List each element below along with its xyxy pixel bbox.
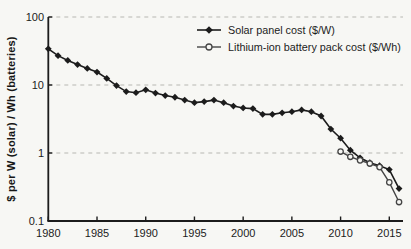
solar-series-point [191,99,198,106]
x-tick-label: 1990 [133,227,157,239]
solar-series-point [279,109,286,116]
solar-series-point [230,103,237,110]
battery-series-point [377,164,382,169]
solar-series-point [211,97,218,104]
solar-series-point [220,99,227,106]
solar-series-marker-icon [196,24,222,36]
solar-series-point [288,108,295,115]
solar-series-point [308,108,315,115]
battery-series-point [387,180,392,185]
legend-item-battery: Lithium-ion battery pack cost ($/Wh) [196,39,401,55]
battery-series-point [348,154,353,159]
battery-series-point [396,199,401,204]
x-tick-label: 2005 [280,227,304,239]
battery-series-marker-icon [196,41,222,53]
x-tick-label: 1980 [36,227,60,239]
solar-series-point [74,61,81,68]
solar-series-point [152,90,159,97]
solar-series-point [298,107,305,114]
solar-series-point [142,86,149,93]
battery-series-point [367,161,372,166]
solar-series-point [259,111,266,118]
x-tick-label: 2000 [231,227,255,239]
x-tick-label: 1985 [85,227,109,239]
solar-series-point [162,92,169,99]
x-tick-label: 1995 [182,227,206,239]
x-tick-label: 2015 [377,227,401,239]
y-axis-title: $ per W (solar) / Wh (batteries) [5,36,17,201]
y-tick-label: 0.1 [29,215,44,227]
solar-series-point [396,185,403,192]
solar-series-point [84,65,91,72]
solar-series-point [269,111,276,118]
battery-series-point [338,149,343,154]
solar-series-point [172,94,179,101]
figure: 1001010.11980198519901995200020052010201… [0,0,411,249]
legend-label: Lithium-ion battery pack cost ($/Wh) [228,41,401,53]
legend: Solar panel cost ($/W) Lithium-ion batte… [196,22,401,55]
battery-series-point [357,158,362,163]
solar-series-line [48,49,399,189]
solar-series-point [133,89,140,96]
solar-series-point [386,166,393,173]
solar-series-point [201,98,208,105]
y-tick-label: 10 [32,79,44,91]
legend-item-solar: Solar panel cost ($/W) [196,22,401,38]
solar-series-point [250,105,257,112]
y-tick-label: 1 [38,147,44,159]
y-tick-label: 100 [26,11,44,23]
solar-series-point [181,97,188,104]
legend-label: Solar panel cost ($/W) [228,24,335,36]
x-tick-label: 2010 [328,227,352,239]
solar-series-point [240,105,247,112]
solar-series-point [64,57,71,64]
